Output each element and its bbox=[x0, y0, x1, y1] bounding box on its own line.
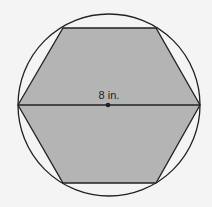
hexagon-in-circle-diagram: 8 in. bbox=[0, 0, 212, 207]
center-point bbox=[106, 103, 111, 108]
diameter-label: 8 in. bbox=[99, 89, 120, 101]
